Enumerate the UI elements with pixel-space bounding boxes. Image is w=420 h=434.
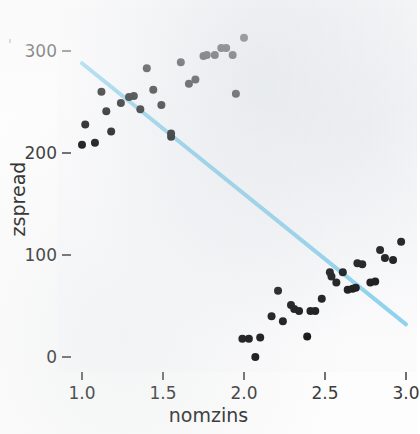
tick-marks: [62, 51, 406, 380]
data-point: [376, 246, 384, 254]
data-point: [203, 51, 211, 59]
data-point: [222, 44, 230, 52]
y-axis-title: zspread: [7, 119, 29, 279]
data-point: [279, 317, 287, 325]
data-point: [157, 101, 165, 109]
data-point: [381, 254, 389, 262]
data-point: [245, 335, 253, 343]
data-point: [211, 51, 219, 59]
data-point: [251, 353, 259, 361]
data-point: [295, 307, 303, 315]
x-axis-title: nomzins: [0, 404, 417, 426]
data-point: [91, 139, 99, 147]
x-tick-label: 1.0: [68, 383, 95, 403]
data-point: [268, 312, 276, 320]
data-point: [311, 307, 319, 315]
data-point: [102, 107, 110, 115]
data-point: [167, 133, 175, 141]
data-point: [274, 287, 282, 295]
data-point: [229, 51, 237, 59]
data-point: [143, 64, 151, 72]
data-point: [256, 334, 264, 342]
data-point: [107, 128, 115, 136]
data-point: [78, 141, 86, 149]
data-point: [240, 34, 248, 42]
x-tick-label: 1.5: [149, 383, 176, 403]
data-point: [389, 256, 397, 264]
y-tick-label: 0: [0, 347, 57, 367]
x-tick-label: 2.5: [311, 383, 338, 403]
data-point: [117, 99, 125, 107]
data-point: [318, 295, 326, 303]
y-tick-label: 300: [0, 41, 57, 61]
data-point: [232, 90, 240, 98]
data-point: [149, 86, 157, 94]
data-point: [136, 105, 144, 113]
x-tick-label: 2.0: [230, 383, 257, 403]
data-points: [78, 34, 405, 361]
data-point: [358, 260, 366, 268]
data-point: [177, 58, 185, 66]
data-point: [191, 76, 199, 84]
data-point: [371, 278, 379, 286]
data-point: [397, 238, 405, 246]
data-point: [97, 88, 105, 96]
data-point: [332, 279, 340, 287]
data-point: [339, 268, 347, 276]
data-point: [81, 120, 89, 128]
data-point: [130, 92, 138, 100]
x-tick-label: 3.0: [392, 383, 419, 403]
data-point: [303, 333, 311, 341]
data-point: [352, 284, 360, 292]
